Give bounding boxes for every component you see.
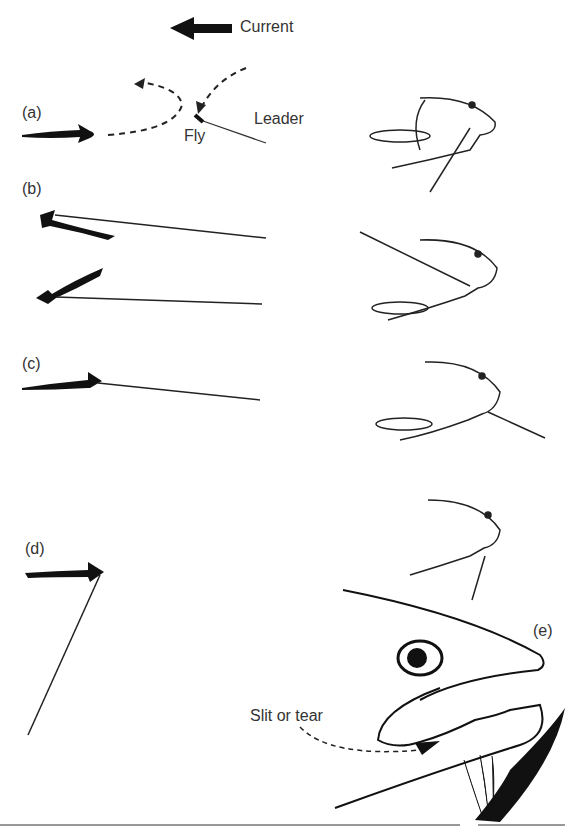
panel-label-a: (a) — [22, 104, 42, 122]
trout-head-d — [410, 500, 500, 600]
trout-head-b — [360, 232, 497, 320]
leader-label: Leader — [254, 110, 304, 128]
panel-label-d: (d) — [25, 540, 45, 558]
slit-label: Slit or tear — [250, 707, 323, 725]
current-arrow-icon — [170, 17, 232, 40]
trout-head-a — [370, 98, 495, 192]
trout-head-c — [376, 362, 545, 440]
fish-path — [108, 82, 182, 135]
fly-large-icon — [475, 708, 565, 822]
panel-label-c: (c) — [22, 355, 41, 373]
panel-label-b: (b) — [22, 180, 42, 198]
fish-a-icon — [22, 124, 94, 143]
panel-label-e: (e) — [533, 622, 553, 640]
fly-label: Fly — [184, 127, 205, 145]
current-label: Current — [240, 18, 293, 36]
fly-icon — [195, 115, 203, 122]
